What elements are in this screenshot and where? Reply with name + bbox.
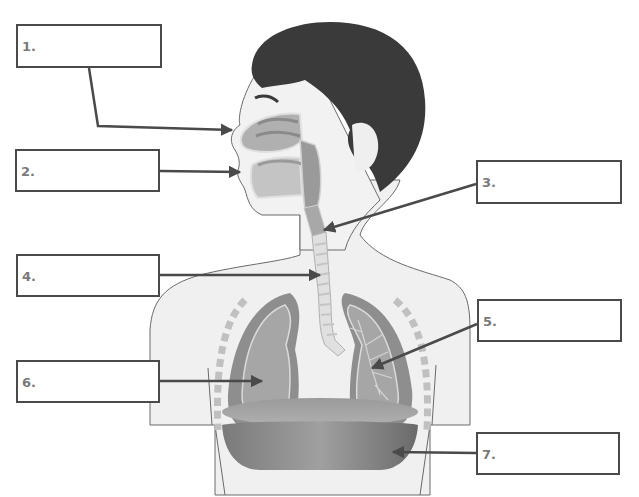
respiratory-illustration <box>0 0 639 497</box>
label-number: 7. <box>482 446 496 461</box>
diaphragm <box>222 398 418 470</box>
label-box-4[interactable]: 4. <box>16 254 160 297</box>
label-number: 6. <box>22 374 36 389</box>
label-box-7[interactable]: 7. <box>476 432 620 475</box>
label-box-1[interactable]: 1. <box>16 24 162 68</box>
label-number: 3. <box>482 175 496 190</box>
head <box>231 22 425 250</box>
label-number: 1. <box>22 39 36 54</box>
arrow-2 <box>160 171 240 172</box>
label-box-3[interactable]: 3. <box>476 160 622 204</box>
arrow-7 <box>393 452 476 453</box>
label-number: 5. <box>483 313 497 328</box>
arrow-1 <box>89 68 232 130</box>
label-number: 2. <box>21 163 35 178</box>
label-box-5[interactable]: 5. <box>477 299 622 342</box>
label-box-2[interactable]: 2. <box>15 149 160 192</box>
label-number: 4. <box>22 268 36 283</box>
label-box-6[interactable]: 6. <box>16 360 160 403</box>
